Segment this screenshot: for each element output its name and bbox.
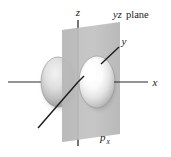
orbital-label-subscript: x <box>106 137 111 146</box>
y-axis-label: y <box>121 35 127 47</box>
yz-plane-label-italic: yz <box>112 9 122 20</box>
front-lobe-body <box>79 56 115 108</box>
orbital-diagram-figure: z y x yz plane p x <box>0 0 171 157</box>
z-axis-label: z <box>75 6 81 18</box>
orbital-label-symbol: p <box>99 131 106 143</box>
orbital-diagram-canvas: z y x yz plane p x <box>0 0 171 157</box>
front-lobe-specular-highlight <box>84 62 97 82</box>
x-axis-label: x <box>152 76 158 88</box>
yz-plane-label: yz plane <box>112 9 149 20</box>
yz-plane-label-roman: plane <box>126 9 149 20</box>
